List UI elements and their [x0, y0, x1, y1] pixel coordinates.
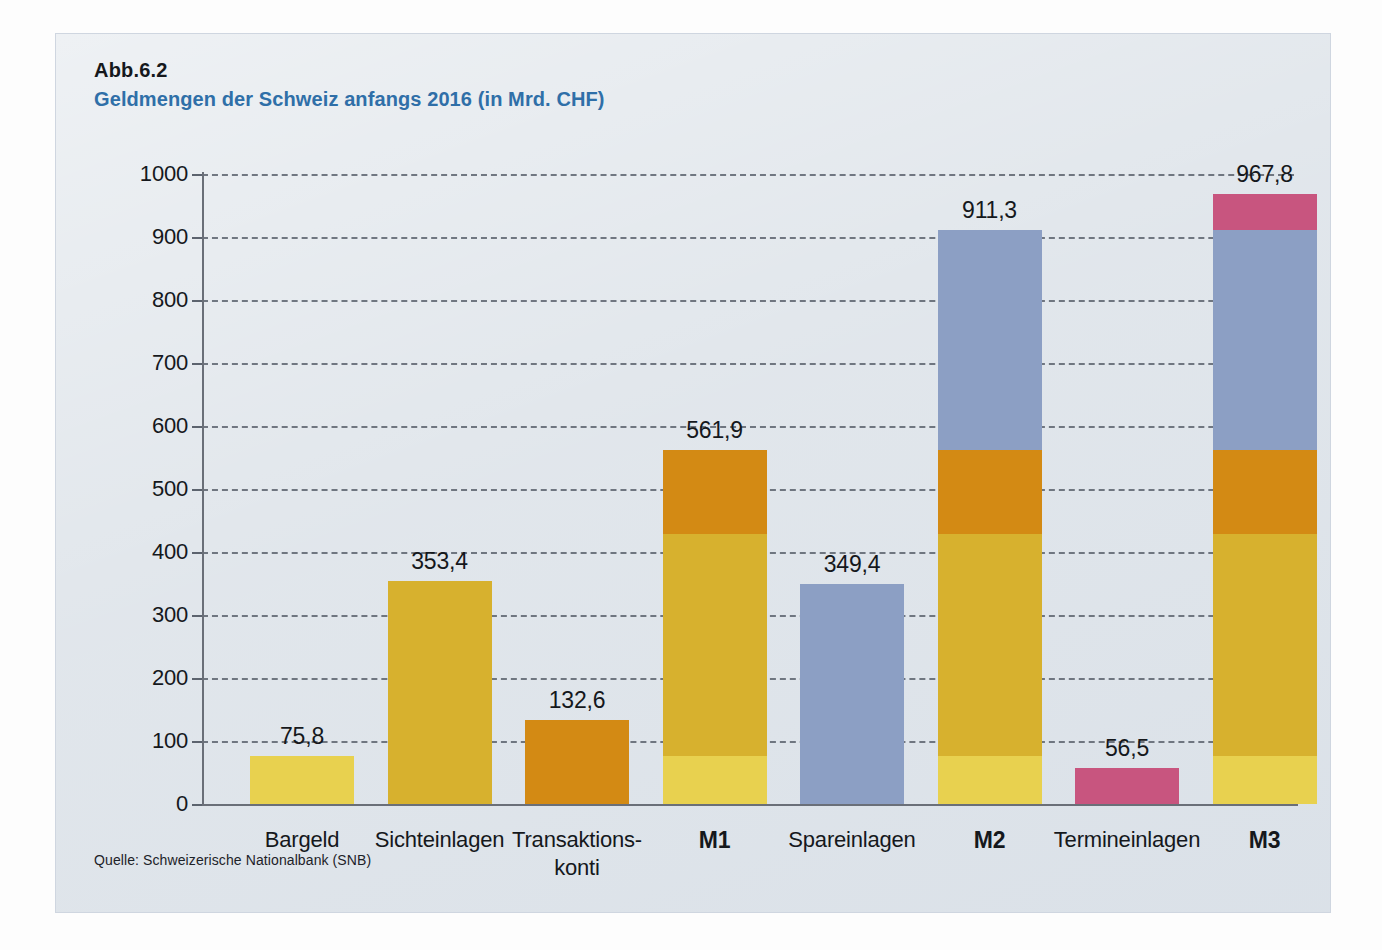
source-note: Quelle: Schweizerische Nationalbank (SNB…	[94, 852, 371, 868]
bar-value-label: 911,3	[962, 197, 1017, 224]
bar-column[interactable]: 349,4	[800, 174, 904, 804]
x-axis-line	[202, 804, 1298, 806]
figure-title: Geldmengen der Schweiz anfangs 2016 (in …	[94, 86, 1094, 112]
bar-stack	[938, 230, 1042, 804]
bar-segment-transaktionskonti[interactable]	[938, 450, 1042, 534]
bar-stack	[800, 584, 904, 804]
bar-column[interactable]: 132,6	[525, 174, 629, 804]
bar-column[interactable]: 967,8	[1213, 174, 1317, 804]
bar-value-label: 75,8	[280, 723, 324, 750]
bar-segment-termineinlagen[interactable]	[1075, 768, 1179, 804]
y-axis-tick-label: 400	[118, 539, 188, 565]
bar-value-label: 349,4	[824, 551, 881, 578]
bar-segment-transaktionskonti[interactable]	[663, 450, 767, 534]
bar-value-label: 353,4	[411, 548, 468, 575]
bar-segment-bargeld[interactable]	[1213, 756, 1317, 804]
figure-card: Abb.6.2 Geldmengen der Schweiz anfangs 2…	[56, 34, 1330, 912]
bar-column[interactable]: 911,3	[938, 174, 1042, 804]
y-axis-tick-label: 600	[118, 413, 188, 439]
bar-value-label: 132,6	[549, 687, 606, 714]
y-axis-line	[202, 172, 204, 806]
figure-header: Abb.6.2 Geldmengen der Schweiz anfangs 2…	[94, 58, 1094, 112]
bar-segment-bargeld[interactable]	[250, 756, 354, 804]
bar-value-label: 56,5	[1105, 735, 1149, 762]
bar-stack	[250, 756, 354, 804]
x-axis-label-line: M3	[1170, 826, 1360, 855]
bar-segment-spareinlagen[interactable]	[800, 584, 904, 804]
bar-column[interactable]: 56,5	[1075, 174, 1179, 804]
bar-segment-sichteinlagen[interactable]	[388, 581, 492, 804]
bar-value-label: 967,8	[1236, 161, 1293, 188]
bar-segment-spareinlagen[interactable]	[1213, 230, 1317, 450]
figure-page: Abb.6.2 Geldmengen der Schweiz anfangs 2…	[0, 0, 1382, 950]
chart-plot-area: 10009008007006005004003002001000 75,8353…	[150, 139, 1300, 829]
bar-column[interactable]: 75,8	[250, 174, 354, 804]
bar-stack	[1075, 768, 1179, 804]
y-axis-tick-label: 900	[118, 224, 188, 250]
bar-segment-spareinlagen[interactable]	[938, 230, 1042, 450]
y-axis-tick-label: 200	[118, 665, 188, 691]
bar-stack	[1213, 194, 1317, 804]
bar-segment-sichteinlagen[interactable]	[1213, 534, 1317, 757]
bar-value-label: 561,9	[686, 417, 743, 444]
y-axis-tick-label: 0	[118, 791, 188, 817]
bar-segment-termineinlagen[interactable]	[1213, 194, 1317, 230]
y-axis-tick-label: 300	[118, 602, 188, 628]
bar-stack	[525, 720, 629, 804]
bar-stack	[388, 581, 492, 804]
y-axis-tick-label: 100	[118, 728, 188, 754]
figure-number: Abb.6.2	[94, 58, 1094, 83]
x-axis-label-line: konti	[482, 854, 672, 882]
x-axis-label: M3	[1170, 826, 1360, 855]
y-axis-tick-label: 700	[118, 350, 188, 376]
bar-segment-transaktionskonti[interactable]	[525, 720, 629, 804]
bar-segment-bargeld[interactable]	[663, 756, 767, 804]
y-axis-tick-label: 800	[118, 287, 188, 313]
y-axis-tick-label: 500	[118, 476, 188, 502]
bar-segment-bargeld[interactable]	[938, 756, 1042, 804]
bar-segment-transaktionskonti[interactable]	[1213, 450, 1317, 534]
bar-segment-sichteinlagen[interactable]	[663, 534, 767, 757]
y-axis-tick-label: 1000	[118, 161, 188, 187]
bar-segment-sichteinlagen[interactable]	[938, 534, 1042, 757]
bar-column[interactable]: 353,4	[388, 174, 492, 804]
bar-stack	[663, 450, 767, 804]
bar-column[interactable]: 561,9	[663, 174, 767, 804]
